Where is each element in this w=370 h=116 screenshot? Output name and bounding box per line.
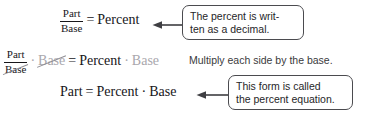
term-percent: Percent — [79, 53, 121, 68]
equation-row-1: Part Base =Percent — [60, 8, 139, 34]
multiplication-dot: · — [138, 84, 149, 99]
callout-line-2: the percent equation. — [236, 93, 346, 106]
equation-row-2: Part Base ·Base=Percent·Base — [4, 49, 159, 75]
arrow-left-icon — [196, 86, 230, 104]
callout-percent-equation: This form is called the percent equation… — [228, 75, 353, 110]
fraction-denominator-cancelled: Base — [4, 64, 27, 76]
fraction-numerator: Part — [60, 8, 83, 20]
term-percent: Percent — [97, 12, 139, 27]
callout-line-1: The percent is writ- — [190, 10, 297, 23]
fraction-part-over-base: Part Base — [4, 49, 27, 75]
equals-sign: = — [83, 84, 97, 99]
callout-line-1: This form is called — [236, 80, 346, 93]
equals-sign: = — [65, 53, 79, 68]
fraction-numerator: Part — [4, 49, 27, 61]
fraction-denominator: Base — [60, 23, 83, 35]
term-percent: Percent — [96, 84, 138, 99]
term-base-ghost: Base — [132, 53, 159, 68]
term-part: Part — [60, 84, 83, 99]
arrow-left-icon — [152, 16, 184, 34]
term-base-cancelled: Base — [38, 54, 65, 68]
equation-row-3: Part=Percent·Base — [60, 85, 176, 99]
callout-line-2: ten as a decimal. — [190, 23, 297, 36]
multiplication-dot: · — [121, 53, 132, 68]
term-base: Base — [149, 84, 176, 99]
callout-percent-decimal: The percent is writ- ten as a decimal. — [182, 5, 304, 40]
fraction-part-over-base: Part Base — [60, 8, 83, 34]
figure-canvas: Part Base =Percent The percent is writ- … — [0, 0, 370, 116]
note-multiply-each-side: Multiply each side by the base. — [189, 55, 333, 66]
equals-sign: = — [83, 12, 97, 27]
